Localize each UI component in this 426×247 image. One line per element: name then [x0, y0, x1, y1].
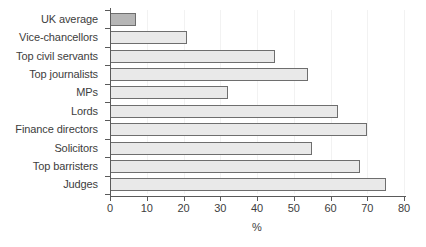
category-axis-labels: UK average Vice-chancellors Top civil se…: [0, 10, 104, 194]
bar-finance-directors: [110, 123, 367, 136]
bar-top-civil-servants: [110, 50, 275, 63]
x-axis-tick-label: 40: [251, 203, 263, 214]
bar-top-journalists: [110, 68, 308, 81]
category-label-solicitors: Solicitors: [0, 139, 104, 157]
bar-uk-average: [110, 13, 136, 26]
x-axis-tick: [110, 196, 111, 201]
bar-slot: [110, 28, 404, 46]
plot-area: [110, 10, 404, 194]
x-axis-tick-label: 0: [107, 203, 113, 214]
x-axis-tick-label: 30: [214, 203, 226, 214]
bar-solicitors: [110, 142, 312, 155]
y-axis-tick: [105, 120, 110, 121]
bar-judges: [110, 178, 386, 191]
x-axis-tick: [184, 196, 185, 201]
y-axis-tick: [105, 47, 110, 48]
category-label-finance-directors: Finance directors: [0, 120, 104, 138]
x-axis-tick: [147, 196, 148, 201]
bar-series: [110, 10, 404, 194]
bar-mps: [110, 86, 228, 99]
y-axis-tick: [105, 176, 110, 177]
bar-slot: [110, 139, 404, 157]
x-axis-tick: [367, 196, 368, 201]
category-label-top-journalists: Top journalists: [0, 65, 104, 83]
x-axis-tick: [220, 196, 221, 201]
y-axis-tick: [105, 84, 110, 85]
y-axis-line: [110, 8, 111, 196]
bar-slot: [110, 47, 404, 65]
x-axis-tick-label: 10: [141, 203, 153, 214]
category-label-top-civil-servants: Top civil servants: [0, 47, 104, 65]
bar-slot: [110, 176, 404, 194]
x-axis-tick-label: 50: [288, 203, 300, 214]
bar-slot: [110, 10, 404, 28]
bar-lords: [110, 105, 338, 118]
x-axis-tick: [331, 196, 332, 201]
bar-slot: [110, 157, 404, 175]
x-axis-tick: [257, 196, 258, 201]
x-axis-line: [110, 196, 406, 197]
x-axis-tick-label: 20: [177, 203, 189, 214]
x-axis-tick-labels: 01020304050607080: [0, 203, 426, 217]
y-axis-tick: [105, 102, 110, 103]
category-label-mps: MPs: [0, 84, 104, 102]
x-axis-tick: [294, 196, 295, 201]
bar-chart: UK average Vice-chancellors Top civil se…: [0, 0, 426, 247]
x-axis-tick-label: 60: [324, 203, 336, 214]
category-label-lords: Lords: [0, 102, 104, 120]
x-axis-title: %: [110, 222, 404, 233]
bar-slot: [110, 120, 404, 138]
bar-vice-chancellors: [110, 31, 187, 44]
category-label-vice-chancellors: Vice-chancellors: [0, 28, 104, 46]
x-axis-tick-label: 70: [361, 203, 373, 214]
bar-slot: [110, 84, 404, 102]
x-axis-tick-label: 80: [398, 203, 410, 214]
y-axis-tick: [105, 157, 110, 158]
y-axis-tick: [105, 28, 110, 29]
y-axis-tick: [105, 65, 110, 66]
gridline: [404, 10, 405, 194]
category-label-judges: Judges: [0, 176, 104, 194]
y-axis-tick: [105, 139, 110, 140]
bar-slot: [110, 65, 404, 83]
category-label-top-barristers: Top barristers: [0, 157, 104, 175]
category-label-uk-average: UK average: [0, 10, 104, 28]
bar-top-barristers: [110, 160, 360, 173]
x-axis-tick: [404, 196, 405, 201]
y-axis-tick: [105, 10, 110, 11]
bar-slot: [110, 102, 404, 120]
y-axis-tick: [105, 194, 110, 195]
